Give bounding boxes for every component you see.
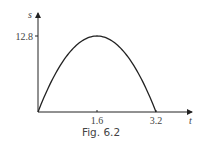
figure-caption: Fig. 6.2 [82, 126, 120, 138]
x-axis-label: t [189, 115, 192, 126]
series-line [38, 36, 156, 112]
x-tick-label: 3.2 [150, 115, 163, 126]
y-axis-label: s [28, 9, 32, 20]
x-tick-label: 1.6 [91, 115, 104, 126]
chart: 1.63.212.8 t s Fig. 6.2 [0, 0, 200, 149]
y-tick-label: 12.8 [16, 31, 34, 42]
